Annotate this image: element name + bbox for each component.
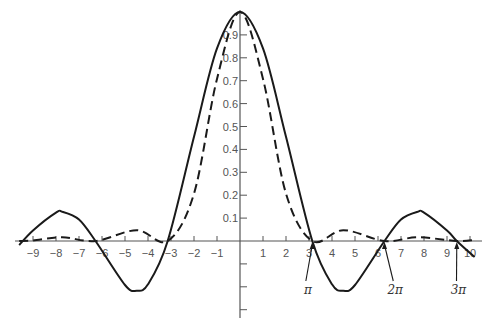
y-tick-label: 0.6 (223, 98, 238, 110)
x-tick-label: −8 (50, 247, 63, 259)
annotation-arrow (385, 245, 394, 281)
x-tick-label: 7 (398, 247, 404, 259)
y-tick-label: 0.8 (223, 52, 238, 64)
annotation-label: 2π (386, 283, 404, 297)
y-tick-label: 0.5 (223, 121, 238, 133)
y-tick-label: 0.1 (223, 212, 238, 224)
x-tick-label: −9 (27, 247, 40, 259)
x-tick-label: −2 (188, 247, 201, 259)
y-tick-label: 0.3 (223, 166, 238, 178)
curves (19, 12, 474, 291)
x-tick-label: −7 (73, 247, 86, 259)
x-tick-label: −4 (142, 247, 155, 259)
sinc-squared-curve (19, 12, 474, 242)
x-tick-label: 9 (444, 247, 450, 259)
x-tick-label: 5 (352, 247, 358, 259)
sinc-chart: −9−8−7−6−5−4−3−2−1123456789100.10.20.30.… (0, 0, 492, 332)
x-tick-label: −3 (165, 247, 178, 259)
y-tick-label: 0.2 (223, 189, 238, 201)
x-tick-label: 8 (421, 247, 427, 259)
axes: −9−8−7−6−5−4−3−2−1123456789100.10.20.30.… (15, 10, 482, 318)
x-tick-label: −1 (211, 247, 224, 259)
x-tick-label: 4 (329, 247, 335, 259)
sinc-curve (19, 12, 474, 291)
annotation-label: 3π (451, 283, 468, 297)
y-tick-label: 0.4 (223, 143, 238, 155)
y-tick-label: 0.7 (223, 75, 238, 87)
x-tick-label: −5 (119, 247, 132, 259)
x-tick-label: 2 (283, 247, 289, 259)
annotation-label: π (303, 283, 313, 297)
annotations: π2π3π (303, 242, 467, 297)
x-tick-label: 1 (260, 247, 266, 259)
